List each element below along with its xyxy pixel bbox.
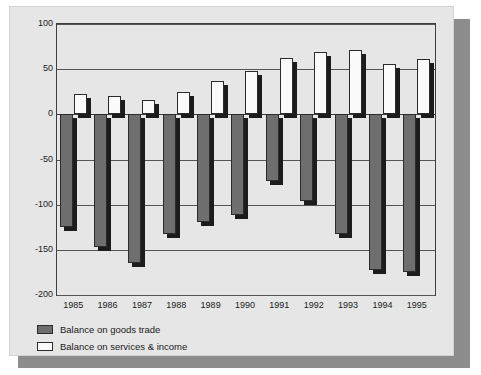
bar-goods-trade bbox=[163, 114, 176, 233]
bar-goods-trade bbox=[266, 114, 279, 181]
x-tick-label: 1993 bbox=[331, 300, 365, 311]
bar-group bbox=[263, 24, 297, 295]
bar-services-income bbox=[245, 71, 258, 114]
bar-services-income bbox=[417, 59, 430, 114]
legend-swatch-goods bbox=[37, 325, 53, 334]
x-tick-label: 1990 bbox=[228, 300, 262, 311]
bar-services-income bbox=[349, 50, 362, 114]
x-tick-label: 1985 bbox=[56, 300, 90, 311]
y-tick-label: 50 bbox=[13, 64, 53, 73]
y-tick-label: -50 bbox=[13, 155, 53, 164]
x-tick-label: 1992 bbox=[297, 300, 331, 311]
x-tick-label: 1995 bbox=[400, 300, 434, 311]
bar-group bbox=[91, 24, 125, 295]
bar-goods-trade bbox=[128, 114, 141, 263]
bar-group bbox=[194, 24, 228, 295]
bar-goods-trade bbox=[94, 114, 107, 247]
bar-goods-trade bbox=[369, 114, 382, 269]
bar-group bbox=[298, 24, 332, 295]
bar-goods-trade bbox=[403, 114, 416, 272]
bar-services-income bbox=[314, 52, 327, 114]
y-tick-label: -200 bbox=[13, 290, 53, 299]
y-axis-labels: 100500-50-100-150-200 bbox=[10, 23, 53, 296]
bar-services-income bbox=[142, 100, 155, 114]
y-tick-label: 100 bbox=[13, 19, 53, 28]
bar-group bbox=[160, 24, 194, 295]
x-tick-label: 1994 bbox=[365, 300, 399, 311]
bar-goods-trade bbox=[231, 114, 244, 214]
bar-services-income bbox=[280, 58, 293, 114]
bar-services-income bbox=[108, 96, 121, 114]
bar-group bbox=[401, 24, 435, 295]
chart-legend: Balance on goods tradeBalance on service… bbox=[37, 322, 187, 356]
bar-services-income bbox=[211, 81, 224, 114]
bar-group bbox=[332, 24, 366, 295]
legend-label: Balance on goods trade bbox=[60, 324, 160, 335]
legend-item: Balance on services & income bbox=[37, 339, 187, 354]
bars-layer bbox=[57, 24, 435, 295]
plot-area bbox=[56, 23, 436, 296]
y-tick-label: -150 bbox=[13, 245, 53, 254]
bar-goods-trade bbox=[60, 114, 73, 227]
bar-group bbox=[126, 24, 160, 295]
bar-goods-trade bbox=[300, 114, 313, 201]
y-tick-label: -100 bbox=[13, 200, 53, 209]
bar-group bbox=[229, 24, 263, 295]
bar-goods-trade bbox=[335, 114, 348, 233]
bar-goods-trade bbox=[197, 114, 210, 221]
y-tick-label: 0 bbox=[13, 109, 53, 118]
legend-item: Balance on goods trade bbox=[37, 322, 187, 337]
x-tick-label: 1989 bbox=[193, 300, 227, 311]
bar-services-income bbox=[383, 64, 396, 115]
chart-figure: 100500-50-100-150-200 198519861987198819… bbox=[0, 0, 481, 375]
bar-services-income bbox=[74, 94, 87, 115]
gridline--200 bbox=[57, 295, 435, 296]
figure-card: 100500-50-100-150-200 198519861987198819… bbox=[9, 6, 454, 356]
x-tick-label: 1991 bbox=[262, 300, 296, 311]
bar-services-income bbox=[177, 92, 190, 115]
x-tick-label: 1986 bbox=[90, 300, 124, 311]
bar-group bbox=[57, 24, 91, 295]
legend-swatch-services bbox=[37, 342, 53, 351]
x-tick-label: 1988 bbox=[159, 300, 193, 311]
x-tick-label: 1987 bbox=[125, 300, 159, 311]
legend-label: Balance on services & income bbox=[60, 341, 187, 352]
bar-group bbox=[366, 24, 400, 295]
x-axis-labels: 1985198619871988198919901991199219931994… bbox=[56, 300, 436, 314]
